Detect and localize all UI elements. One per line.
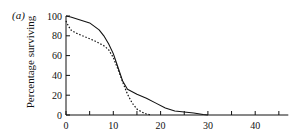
x-tick-label: 20 — [156, 120, 166, 131]
x-tick-label: 0 — [64, 120, 69, 131]
y-tick-label: 20 — [52, 90, 62, 101]
survival-chart: 020406080100010203040 — [0, 0, 294, 139]
y-tick-label: 60 — [52, 50, 62, 61]
y-tick-label: 0 — [57, 110, 62, 121]
series-line-solid — [66, 16, 208, 115]
x-tick-label: 30 — [203, 120, 213, 131]
y-tick-label: 100 — [47, 11, 62, 22]
series-line-dotted — [66, 21, 151, 115]
y-tick-label: 80 — [52, 30, 62, 41]
x-tick-label: 40 — [250, 120, 260, 131]
x-tick-label: 10 — [108, 120, 118, 131]
y-tick-label: 40 — [52, 70, 62, 81]
series-group — [66, 16, 208, 115]
axes: 020406080100010203040 — [47, 11, 288, 132]
